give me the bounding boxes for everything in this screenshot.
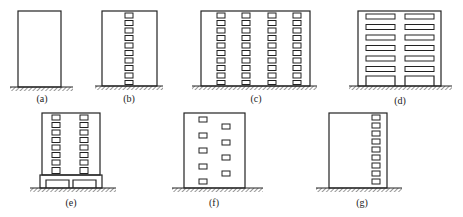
ground-hatch (172, 188, 263, 192)
ground-hatch (30, 188, 116, 192)
window-columns (52, 115, 88, 174)
panel-label: (b) (123, 93, 135, 105)
panel-c: (c) (192, 11, 317, 105)
panel-a: (a) (10, 11, 73, 105)
panel-f: (f) (172, 113, 263, 209)
panel-d: (d) (349, 11, 452, 107)
building-outline (184, 113, 245, 188)
ground-hatch (10, 87, 73, 91)
ground-hatch (95, 86, 163, 90)
staggered-windows (199, 117, 230, 184)
ground-hatch (349, 86, 452, 90)
panel-g: (g) (316, 113, 402, 209)
podium (40, 175, 102, 188)
tower-outline (42, 113, 100, 175)
window-columns (217, 13, 301, 85)
panel-label: (g) (356, 197, 368, 209)
ground-hatch (192, 86, 317, 90)
building-openings-diagram: (a) (b) (0, 0, 463, 217)
panel-e: (e) (30, 113, 116, 209)
panel-label: (c) (250, 93, 261, 105)
ground-hatch (316, 188, 402, 192)
panel-label: (a) (36, 93, 47, 105)
horizontal-openings (366, 14, 434, 72)
panel-label: (d) (394, 95, 406, 107)
building-outline (18, 11, 61, 87)
window-column (125, 13, 133, 85)
ground-floor-openings (366, 76, 434, 86)
panel-label: (e) (65, 197, 76, 209)
panel-b: (b) (95, 11, 163, 105)
window-column (372, 115, 380, 184)
panel-label: (f) (209, 197, 219, 209)
